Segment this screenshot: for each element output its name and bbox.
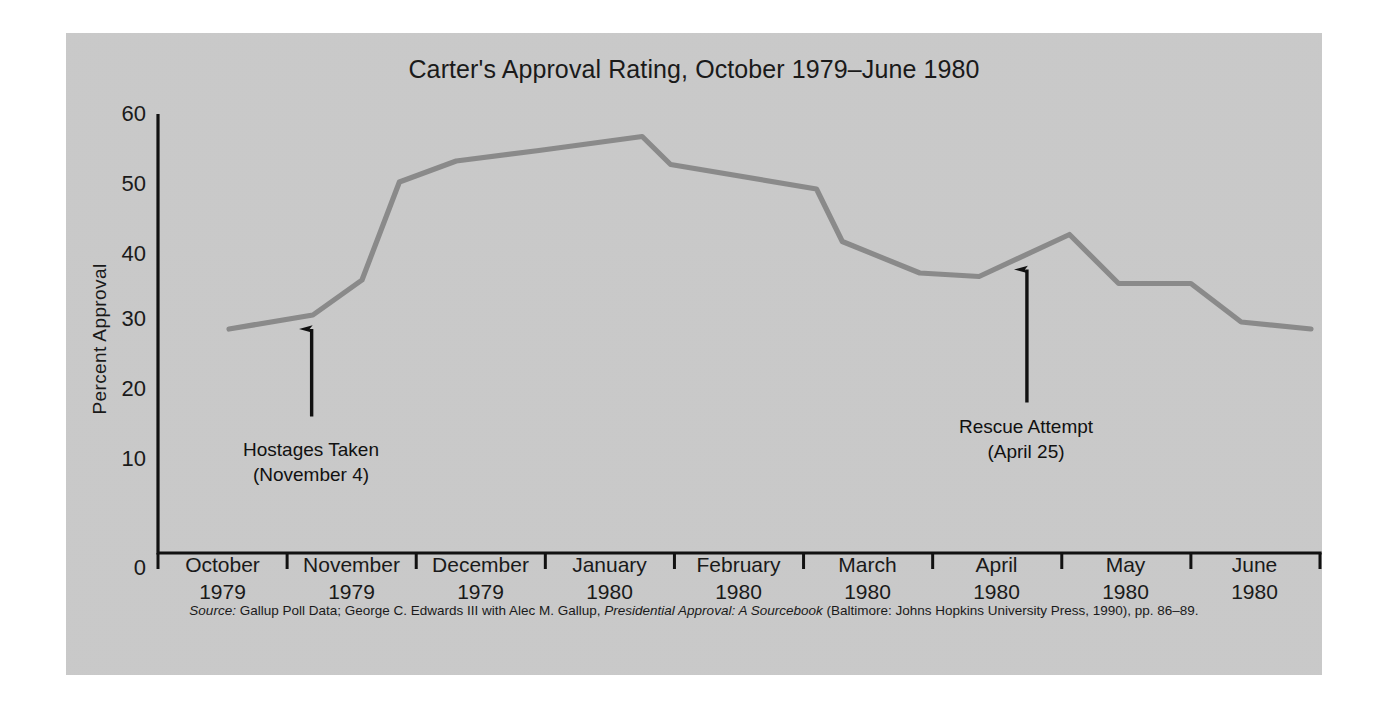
source-label: Source: (189, 603, 236, 618)
plot-area (66, 33, 1322, 675)
axis-lines (158, 116, 1320, 554)
x-axis-ticks (158, 553, 1320, 569)
source-citation: Source: Gallup Poll Data; George C. Edwa… (66, 603, 1322, 618)
annotation-arrows (312, 270, 1027, 417)
approval-rating-line (229, 137, 1311, 330)
source-part-1: Gallup Poll Data; George C. Edwards III … (236, 603, 604, 618)
figure-panel: Carter's Approval Rating, October 1979–J… (66, 33, 1322, 675)
source-part-2: (Baltimore: Johns Hopkins University Pre… (823, 603, 1199, 618)
source-book-title: Presidential Approval: A Sourcebook (604, 603, 822, 618)
